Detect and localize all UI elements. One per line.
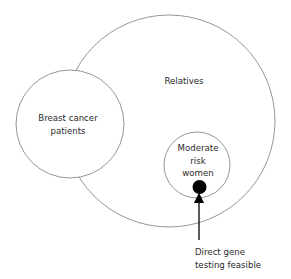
moderate-risk-label-line3: women — [182, 168, 213, 178]
venn-diagram: Relatives Breast cancer patients Moderat… — [0, 0, 291, 279]
relatives-label: Relatives — [164, 76, 204, 86]
breast-cancer-label-line1: Breast cancer — [38, 113, 98, 123]
gene-testing-dot — [193, 180, 207, 194]
annotation-label-line1: Direct gene — [195, 247, 245, 257]
moderate-risk-label-line1: Moderate — [178, 143, 219, 153]
moderate-risk-label-line2: risk — [190, 156, 205, 166]
breast-cancer-label-line2: patients — [50, 126, 86, 136]
annotation-label-line2: testing feasible — [195, 260, 261, 270]
breast-cancer-patients-circle — [16, 70, 124, 178]
